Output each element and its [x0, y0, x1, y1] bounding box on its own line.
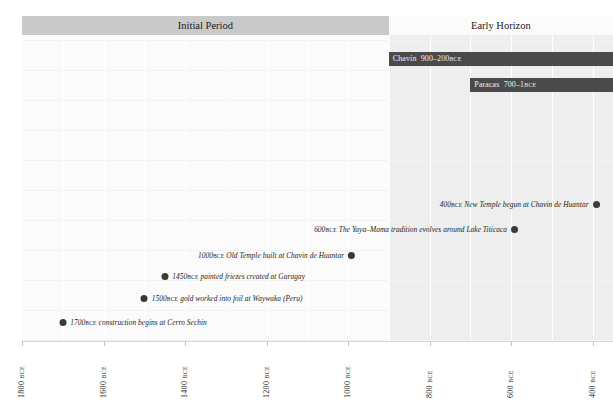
- gridline-horizontal: [22, 280, 613, 281]
- culture-bar-paracas: Paracas 700–1BCE: [470, 78, 613, 92]
- gridline-horizontal: [22, 190, 613, 191]
- axis-tick-number: 1200: [262, 379, 271, 399]
- axis-tick-suffix: BCE: [264, 366, 270, 378]
- gridline-vertical: [22, 16, 23, 341]
- timeline-event: 1000BCE Old Temple built at Chavin de Hu…: [198, 249, 355, 261]
- event-year-suffix: BCE: [187, 274, 198, 280]
- axis-tick: [511, 341, 512, 346]
- axis-tick-label: 1800 BCE: [17, 348, 27, 398]
- event-text: Old Temple built at Chavin de Huantar: [224, 251, 344, 260]
- event-dot-icon: [161, 273, 168, 280]
- event-label: 1500BCE gold worked into foil at Waywaka…: [152, 294, 303, 303]
- event-text: construction begins at Cerro Sechin: [97, 318, 207, 327]
- axis-tick-label: 800 BCE: [425, 348, 435, 398]
- axis-tick-label: 600 BCE: [506, 348, 516, 398]
- x-axis-line: [22, 341, 613, 342]
- axis-tick-label: 1000 BCE: [343, 348, 353, 398]
- event-year: 1500: [152, 294, 167, 303]
- event-year-suffix: BCE: [85, 320, 96, 326]
- event-label: 1700BCE construction begins at Cerro Sec…: [70, 318, 207, 327]
- axis-tick: [104, 341, 105, 346]
- event-year-suffix: BCE: [325, 227, 336, 233]
- era-band-label: Initial Period: [178, 20, 233, 31]
- axis-tick-number: 1600: [99, 379, 108, 399]
- event-text: gold worked into foil at Waywaka (Peru): [178, 294, 302, 303]
- event-dot-icon: [59, 319, 66, 326]
- axis-tick-number: 800: [425, 383, 434, 398]
- axis-tick: [22, 341, 23, 346]
- event-year-suffix: BCE: [167, 296, 178, 302]
- event-year: 600: [314, 225, 325, 234]
- era-band-early-horizon: Early Horizon: [389, 16, 613, 35]
- axis-tick-number: 1400: [180, 379, 189, 399]
- axis-tick-label: 1400 BCE: [180, 348, 190, 398]
- axis-tick-label: 1200 BCE: [262, 348, 272, 398]
- timeline-event: 1700BCE construction begins at Cerro Sec…: [59, 316, 207, 328]
- axis-tick-suffix: BCE: [590, 370, 596, 382]
- axis-tick-suffix: BCE: [508, 370, 514, 382]
- era-band-label: Early Horizon: [471, 20, 531, 31]
- event-label: 600BCE The Yaya–Mama tradition evolves a…: [314, 225, 507, 234]
- event-text: painted friezes created at Garagay: [199, 272, 305, 281]
- gridline-horizontal: [22, 100, 613, 101]
- event-year-suffix: BCE: [213, 253, 224, 259]
- event-text: The Yaya–Mama tradition evolves around L…: [337, 225, 507, 234]
- axis-tick-label: 1600 BCE: [99, 348, 109, 398]
- event-text: New Temple begun at Chavin de Huantar: [462, 200, 588, 209]
- axis-tick-label: 400 BCE: [588, 348, 598, 398]
- culture-bar-name: Chavín 900–200: [393, 54, 450, 63]
- gridline-horizontal: [22, 70, 613, 71]
- culture-bar-chavn: Chavín 900–200BCE: [389, 52, 613, 66]
- event-year-suffix: BCE: [451, 202, 462, 208]
- axis-tick-suffix: BCE: [19, 366, 25, 378]
- timeline-event: 1500BCE gold worked into foil at Waywaka…: [141, 292, 303, 304]
- event-label: 1450BCE painted friezes created at Garag…: [172, 272, 305, 281]
- gridline-horizontal: [22, 220, 613, 221]
- axis-tick-number: 400: [588, 383, 597, 398]
- axis-tick-suffix: BCE: [182, 366, 188, 378]
- timeline-event: 400BCE New Temple begun at Chavin de Hua…: [440, 198, 600, 210]
- axis-tick-number: 1800: [17, 379, 26, 399]
- event-label: 400BCE New Temple begun at Chavin de Hua…: [440, 200, 589, 209]
- axis-tick-suffix: BCE: [101, 366, 107, 378]
- gridline-horizontal: [22, 310, 613, 311]
- axis-tick: [430, 341, 431, 346]
- gridline-horizontal: [22, 160, 613, 161]
- axis-tick-suffix: BCE: [427, 370, 433, 382]
- event-year: 1000: [198, 251, 213, 260]
- timeline-chart: Initial PeriodEarly Horizon Chavín 900–2…: [0, 0, 613, 401]
- timeline-event: 600BCE The Yaya–Mama tradition evolves a…: [314, 223, 518, 235]
- axis-tick: [185, 341, 186, 346]
- event-year: 1700: [70, 318, 85, 327]
- culture-bar-name: Paracas 700–1: [474, 80, 524, 89]
- axis-tick: [267, 341, 268, 346]
- gridline-vertical: [63, 16, 64, 341]
- axis-tick-number: 600: [506, 383, 515, 398]
- axis-tick: [348, 341, 349, 346]
- event-label: 1000BCE Old Temple built at Chavin de Hu…: [198, 251, 344, 260]
- axis-tick-suffix: BCE: [345, 366, 351, 378]
- gridline-horizontal: [22, 40, 613, 41]
- event-dot-icon: [593, 201, 600, 208]
- gridline-vertical: [348, 16, 349, 341]
- gridline-vertical: [104, 16, 105, 341]
- timeline-event: 1450BCE painted friezes created at Garag…: [161, 270, 305, 282]
- gridline-horizontal: [22, 130, 613, 131]
- event-year: 1450: [172, 272, 187, 281]
- event-dot-icon: [141, 295, 148, 302]
- axis-tick-number: 1000: [343, 379, 352, 399]
- event-dot-icon: [348, 252, 355, 259]
- gridline-vertical: [307, 16, 308, 341]
- culture-bar-era-suffix: BCE: [449, 56, 461, 62]
- era-band-initial-period: Initial Period: [22, 16, 389, 35]
- event-year: 400: [440, 200, 451, 209]
- event-dot-icon: [511, 226, 518, 233]
- culture-bar-era-suffix: BCE: [524, 82, 536, 88]
- axis-tick: [593, 341, 594, 346]
